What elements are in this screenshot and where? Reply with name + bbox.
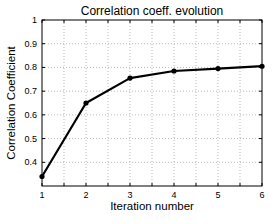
- y-tick-label: 0.7: [24, 86, 37, 96]
- x-tick-label: 3: [127, 190, 132, 200]
- y-tick-label: 0.5: [24, 134, 37, 144]
- y-tick-label: 0.6: [24, 110, 37, 120]
- y-tick-label: 0.9: [24, 39, 37, 49]
- x-tick-label: 1: [39, 190, 44, 200]
- x-tick-label: 4: [171, 190, 176, 200]
- data-point-marker: [83, 100, 88, 105]
- data-point-marker: [215, 66, 220, 71]
- y-tick-label: 0.4: [24, 157, 37, 167]
- y-tick-label: 1: [32, 15, 37, 25]
- data-point-marker: [259, 64, 264, 69]
- series-line: [42, 66, 262, 176]
- data-point-marker: [39, 174, 44, 179]
- chart-title: Correlation coeff. evolution: [81, 4, 224, 18]
- data-point-marker: [171, 68, 176, 73]
- line-chart: Correlation coeff. evolution 0.40.50.60.…: [0, 0, 274, 224]
- x-tick-label: 6: [259, 190, 264, 200]
- y-tick-label: 0.8: [24, 62, 37, 72]
- data-point-marker: [127, 76, 132, 81]
- grid-lines: [42, 20, 262, 186]
- x-tick-label: 5: [215, 190, 220, 200]
- x-tick-label: 2: [83, 190, 88, 200]
- y-axis-label: Correlation Coefficient: [5, 45, 17, 159]
- x-axis-label: Iteration number: [110, 200, 194, 212]
